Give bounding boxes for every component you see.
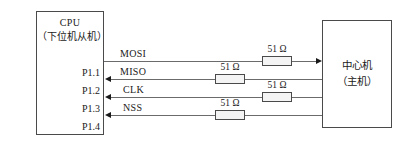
arrowhead-mosi-to-host (316, 58, 322, 64)
cpu-block-title-line1: CPU (37, 17, 103, 30)
cpu-block: CPU （下位机从机） P1.1 P1.2 P1.3 P1.4 (36, 11, 104, 135)
wire-nss-right-segment (245, 115, 322, 116)
host-block-title-line1: 中心机 (323, 59, 391, 72)
signal-label-nss: NSS (123, 102, 142, 113)
pin-label-p1-4: P1.4 (82, 122, 100, 132)
spi-connection-diagram: CPU （下位机从机） P1.1 P1.2 P1.3 P1.4 中心机 （主机）… (0, 0, 401, 146)
resistor-label-miso: 51 Ω (213, 62, 247, 72)
resistor-label-mosi: 51 Ω (260, 44, 294, 54)
cpu-block-title-line2: （下位机从机） (37, 31, 103, 44)
resistor-clk (262, 92, 292, 102)
pin-label-p1-2: P1.2 (82, 86, 100, 96)
wire-clk-right-segment (292, 97, 322, 98)
pin-label-p1-3: P1.3 (82, 104, 100, 114)
resistor-label-clk: 51 Ω (260, 80, 294, 90)
wire-nss-left-segment (111, 115, 215, 116)
resistor-mosi (262, 56, 292, 66)
signal-label-clk: CLK (123, 84, 144, 95)
resistor-miso (215, 74, 245, 84)
signal-label-mosi: MOSI (120, 48, 146, 59)
resistor-nss (215, 110, 245, 120)
pin-label-p1-1: P1.1 (82, 68, 100, 78)
host-block: 中心机 （主机） (322, 20, 392, 128)
wire-miso-left-segment (111, 79, 215, 80)
resistor-label-nss: 51 Ω (213, 98, 247, 108)
signal-label-miso: MISO (120, 66, 146, 77)
host-block-title-line2: （主机） (323, 75, 391, 88)
